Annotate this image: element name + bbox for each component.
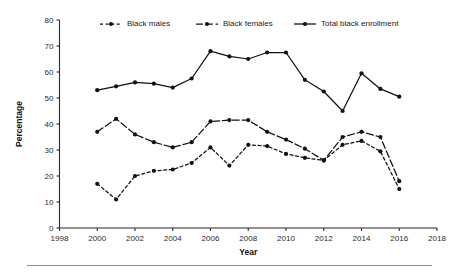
data-point: [227, 164, 231, 168]
data-point: [265, 50, 269, 54]
data-point: [246, 143, 250, 147]
data-point: [341, 135, 345, 139]
x-axis-title: Year: [239, 247, 258, 257]
data-point: [95, 182, 99, 186]
series-path-males: [97, 141, 399, 200]
data-point: [152, 82, 156, 86]
legend-marker-total: [303, 22, 307, 26]
data-point: [171, 86, 175, 90]
y-tick-label: 10: [45, 198, 54, 207]
y-tick-label: 40: [45, 120, 54, 129]
data-point: [171, 145, 175, 149]
legend-marker-females: [205, 22, 209, 26]
x-tick-label: 2006: [202, 234, 220, 243]
y-tick-label: 0: [49, 224, 54, 233]
x-tick-label: 2018: [428, 234, 446, 243]
data-point: [265, 144, 269, 148]
y-tick-label: 80: [45, 16, 54, 25]
x-tick-label: 2016: [390, 234, 408, 243]
chart-legend: Black malesBlack femalesTotal black enro…: [100, 19, 399, 28]
data-point: [95, 130, 99, 134]
data-point: [190, 161, 194, 165]
data-point: [303, 78, 307, 82]
data-point: [378, 149, 382, 153]
data-point: [284, 152, 288, 156]
data-point: [246, 118, 250, 122]
data-point: [114, 117, 118, 121]
axis-lines: [60, 20, 438, 228]
data-point: [208, 49, 212, 53]
data-point: [359, 130, 363, 134]
data-point: [265, 130, 269, 134]
data-point: [133, 132, 137, 136]
data-point: [246, 57, 250, 61]
series-females: [95, 117, 401, 184]
data-point: [171, 167, 175, 171]
data-point: [190, 140, 194, 144]
data-point: [152, 169, 156, 173]
data-point: [359, 71, 363, 75]
data-point: [341, 109, 345, 113]
data-point: [303, 147, 307, 151]
x-tick-label: 2012: [315, 234, 333, 243]
data-point: [95, 88, 99, 92]
x-tick-label: 2000: [88, 234, 106, 243]
y-tick-label: 50: [45, 94, 54, 103]
y-tick-label: 30: [45, 146, 54, 155]
legend-label-males: Black males: [127, 19, 170, 28]
y-axis-title: Percentage: [14, 101, 24, 147]
data-point: [303, 156, 307, 160]
line-chart: 0102030405060708019982000200220042006200…: [0, 0, 460, 279]
data-point: [227, 54, 231, 58]
data-point: [341, 143, 345, 147]
data-point: [322, 158, 326, 162]
data-point: [284, 50, 288, 54]
legend-label-total: Total black enrollment: [321, 19, 399, 28]
x-tick-label: 2010: [277, 234, 295, 243]
legend-label-females: Black females: [223, 19, 273, 28]
data-point: [322, 89, 326, 93]
data-point: [190, 76, 194, 80]
series-path-females: [97, 119, 399, 181]
data-point: [378, 87, 382, 91]
x-tick-label: 1998: [51, 234, 69, 243]
data-point: [397, 179, 401, 183]
footer-divider: [27, 265, 432, 266]
data-point: [378, 135, 382, 139]
chart-figure: 0102030405060708019982000200220042006200…: [0, 0, 460, 279]
data-point: [208, 145, 212, 149]
data-point: [397, 95, 401, 99]
y-tick-label: 60: [45, 68, 54, 77]
x-tick-label: 2002: [126, 234, 144, 243]
y-tick-label: 70: [45, 42, 54, 51]
data-point: [114, 197, 118, 201]
series-males: [95, 139, 401, 202]
data-point: [133, 174, 137, 178]
x-tick-label: 2008: [239, 234, 257, 243]
y-tick-label: 20: [45, 172, 54, 181]
data-point: [114, 84, 118, 88]
x-tick-label: 2004: [164, 234, 182, 243]
data-point: [397, 187, 401, 191]
legend-marker-males: [109, 22, 113, 26]
data-point: [284, 138, 288, 142]
data-point: [208, 119, 212, 123]
data-point: [133, 80, 137, 84]
data-point: [152, 140, 156, 144]
series-total: [95, 49, 401, 113]
data-point: [359, 139, 363, 143]
data-point: [227, 118, 231, 122]
x-tick-label: 2014: [353, 234, 371, 243]
